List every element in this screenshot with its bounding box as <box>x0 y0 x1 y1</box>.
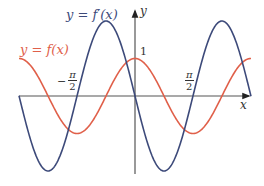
minus-sign: − <box>57 75 66 88</box>
x-tick-pi-2: π2 <box>185 70 194 92</box>
chart-plot-area <box>0 0 264 186</box>
x-axis-label: x <box>240 98 247 112</box>
fraction: π2 <box>68 70 77 92</box>
numerator: π <box>185 70 194 81</box>
y-axis-label: y <box>140 4 147 18</box>
fprime-label: y = f′(x) <box>66 8 118 21</box>
y-tick-1: 1 <box>140 46 147 57</box>
denominator: 2 <box>69 81 75 92</box>
f-label: y = f(x) <box>20 43 69 56</box>
numerator: π <box>68 70 77 81</box>
denominator: 2 <box>186 81 192 92</box>
fraction: π2 <box>185 70 194 92</box>
x-tick-neg-pi-2: −π2 <box>57 70 77 92</box>
